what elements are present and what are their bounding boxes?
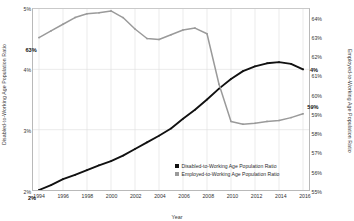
legend-item-label: Disabled-to-Working Age Population Ratio [182,163,277,169]
x-tick: 2010 [227,193,239,199]
chart-legend: Disabled-to-Working Age Population Ratio… [175,163,279,177]
x-tick: 2008 [202,193,214,199]
y-tick-right: 59% [312,112,322,118]
legend-item[interactable]: Employed-to-Working Age Population Ratio [175,171,279,177]
legend-item-label: Employed-to-Working Age Population Ratio [182,171,280,177]
x-tick: 2012 [251,193,263,199]
dual-axis-line-chart: Disabled-to-Working Age Population Ratio… [0,0,354,221]
x-tick: 1998 [82,193,94,199]
x-tick: 2006 [178,193,190,199]
point-annotation: 63% [25,47,36,53]
x-tick: 2016 [299,193,311,199]
legend-swatch-icon [175,172,179,176]
y-tick-right: 57% [312,150,322,156]
legend-item[interactable]: Disabled-to-Working Age Population Ratio [175,163,279,169]
y-tick-right: 61% [312,73,322,79]
x-tick: 2004 [154,193,166,199]
x-tick: 2014 [275,193,287,199]
point-annotation: 59% [307,104,318,110]
y-axis-right-title: Employed-to-Working Age Population Ratio [347,6,353,196]
y-axis-left-title: Disabled-to-Working Age Population Ratio [1,0,7,190]
point-annotation: 2% [28,195,36,201]
y-tick-right: 63% [312,35,322,41]
y-tick-left: 3% [24,128,32,134]
y-tick-right: 56% [312,170,322,176]
x-tick: 2002 [130,193,142,199]
y-tick-right: 55% [312,189,322,195]
y-tick-left: 4% [24,67,32,73]
x-tick: 2000 [106,193,118,199]
y-tick-left: 5% [24,6,32,12]
x-tick: 1996 [57,193,69,199]
point-annotation: 4% [310,67,318,73]
legend-swatch-icon [175,164,179,168]
y-tick-right: 62% [312,54,322,60]
y-tick-right: 60% [312,93,322,99]
x-axis-title: Year [0,214,354,220]
y-tick-right: 58% [312,131,322,137]
y-tick-right: 64% [312,16,322,22]
